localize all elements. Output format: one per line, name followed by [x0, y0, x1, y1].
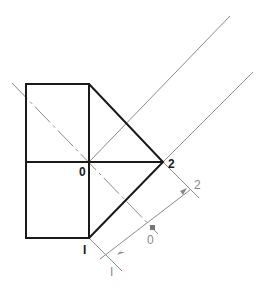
- construction-line-through-origin: [89, 16, 230, 162]
- origin-marker-icon: [150, 225, 155, 230]
- construction-line-through-2: [163, 72, 253, 162]
- measure-axis: [100, 190, 190, 259]
- label-point-2: 2: [168, 157, 175, 171]
- arrowhead-up-icon: [180, 188, 187, 195]
- dashed-diagonal: [12, 83, 158, 234]
- label-origin: 0: [79, 165, 86, 179]
- label-axis-1: I: [110, 265, 113, 279]
- arrowhead-down-icon: [117, 248, 125, 255]
- label-point-1: I: [83, 243, 86, 257]
- label-axis-2: 2: [194, 178, 201, 192]
- geometry-diagram: 0 2 I 0 2 I: [0, 0, 266, 288]
- label-axis-0: 0: [147, 233, 154, 247]
